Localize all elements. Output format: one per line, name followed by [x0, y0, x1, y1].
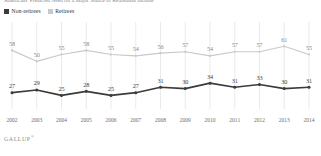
data-label: 30	[281, 78, 287, 85]
registered-mark: ®	[31, 134, 35, 139]
data-label: 56	[157, 43, 163, 50]
data-label: 31	[157, 77, 163, 84]
legend-swatch-icon	[4, 9, 9, 14]
x-tick-label: 2011	[229, 116, 240, 124]
data-label: 61	[281, 36, 287, 43]
gallup-brand-label: GALLUP	[4, 136, 31, 142]
data-label: 54	[133, 45, 139, 52]
x-tick-label: 2006	[106, 116, 117, 124]
data-label: 33	[256, 74, 262, 81]
legend-swatch-icon	[48, 9, 53, 14]
data-point	[60, 94, 63, 97]
chart-plot-area: 5850555855545657545757615527292528252731…	[0, 20, 321, 115]
data-point	[258, 83, 261, 86]
data-label: 34	[207, 73, 213, 80]
data-label: 27	[133, 82, 139, 89]
data-point	[85, 49, 87, 51]
data-point	[308, 53, 310, 55]
data-point	[135, 55, 137, 57]
data-point	[234, 51, 236, 53]
data-label: 58	[9, 40, 15, 47]
data-point	[60, 53, 62, 55]
data-label: 27	[9, 82, 15, 89]
data-point	[184, 87, 187, 90]
data-label: 57	[232, 41, 238, 48]
x-tick-label: 2002	[7, 116, 18, 124]
x-tick-label: 2003	[31, 116, 42, 124]
data-label: 55	[108, 44, 114, 51]
data-point	[85, 90, 88, 93]
data-point	[258, 51, 260, 53]
data-label: 57	[256, 41, 262, 48]
data-label: 31	[306, 77, 312, 84]
x-tick-label: 2004	[56, 116, 67, 124]
x-tick-label: 2008	[155, 116, 166, 124]
data-label: 25	[58, 85, 64, 92]
x-tick-label: 2005	[81, 116, 92, 124]
x-tick-label: 2012	[254, 116, 265, 124]
data-point	[209, 82, 212, 85]
data-point	[35, 88, 38, 91]
data-point	[283, 87, 286, 90]
data-label: 30	[182, 78, 188, 85]
data-point	[308, 86, 311, 89]
data-point	[233, 86, 236, 89]
data-label: 29	[34, 79, 40, 86]
legend-item-retirees[interactable]: Retirees	[48, 8, 75, 15]
data-label: 55	[306, 44, 312, 51]
gallup-attribution: GALLUP®	[4, 134, 34, 142]
data-point	[159, 52, 161, 54]
chart-headline: Americans' Predicted Need for a Major So…	[4, 0, 304, 3]
data-label: 55	[58, 44, 64, 51]
x-tick-label: 2010	[205, 116, 216, 124]
line-chart: 5850555855545657545757615527292528252731…	[0, 20, 321, 115]
x-tick-label: 2013	[279, 116, 290, 124]
data-point	[36, 60, 38, 62]
chart-legend: Non-retirees Retirees	[4, 8, 74, 15]
x-tick-label: 2009	[180, 116, 191, 124]
data-point	[134, 91, 137, 94]
data-label: 58	[83, 40, 89, 47]
legend-label: Retirees	[55, 8, 74, 15]
x-tick-label: 2007	[130, 116, 141, 124]
data-label: 54	[207, 45, 213, 52]
data-point	[110, 53, 112, 55]
data-label: 28	[83, 81, 89, 88]
legend-label: Non-retirees	[12, 8, 41, 15]
x-tick-label: 2014	[304, 116, 315, 124]
x-axis: 2002200320042005200620072008200920102011…	[0, 116, 321, 128]
data-point	[11, 91, 14, 94]
data-label: 25	[108, 85, 114, 92]
data-point	[184, 51, 186, 53]
data-point	[110, 94, 113, 97]
data-point	[159, 86, 162, 89]
data-label: 50	[34, 51, 40, 58]
data-label: 31	[232, 77, 238, 84]
data-point	[209, 55, 211, 57]
data-point	[11, 49, 13, 51]
data-label: 57	[182, 41, 188, 48]
legend-item-non-retirees[interactable]: Non-retirees	[4, 8, 41, 15]
data-point	[283, 45, 285, 47]
